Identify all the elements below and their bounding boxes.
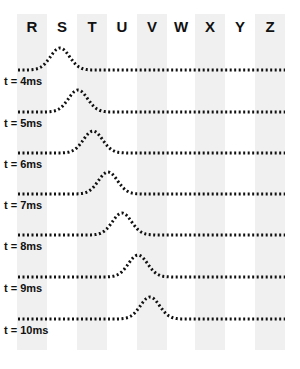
wave-pulse: [18, 48, 285, 70]
time-label: t = 9ms: [4, 282, 42, 294]
time-label: t = 5ms: [4, 117, 42, 129]
wave-pulse: [18, 90, 285, 112]
wave-pulse: [18, 172, 285, 194]
wave-pulse: [18, 131, 285, 153]
time-label: t = 4ms: [4, 75, 42, 87]
wave-pulse: [18, 297, 285, 319]
wave-pulses: [0, 0, 300, 369]
time-label: t = 6ms: [4, 158, 42, 170]
time-label: t = 10ms: [4, 324, 48, 336]
time-label: t = 8ms: [4, 240, 42, 252]
wave-pulse: [18, 255, 285, 277]
time-label: t = 7ms: [4, 199, 42, 211]
wave-pulse: [18, 213, 285, 235]
